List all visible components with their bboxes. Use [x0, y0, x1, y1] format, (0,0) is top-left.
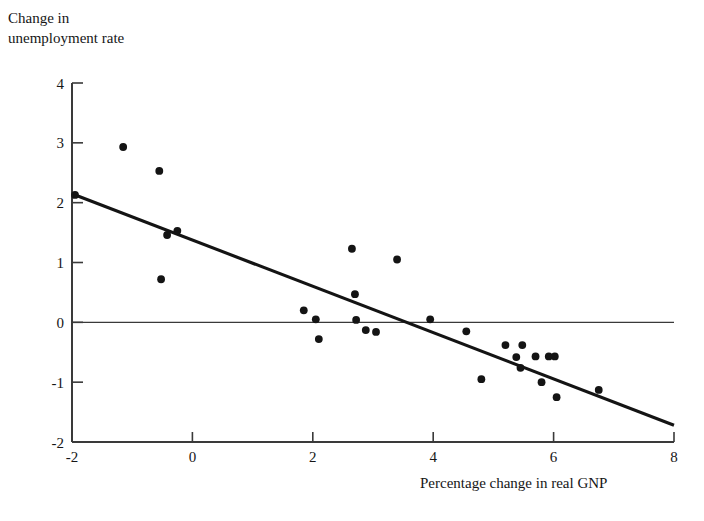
data-point	[348, 245, 356, 253]
x-tick-label: 4	[429, 449, 437, 465]
x-tick-label: 8	[670, 449, 678, 465]
y-tick-label: 3	[57, 135, 65, 151]
y-tick-label: 0	[57, 315, 65, 331]
data-point	[163, 231, 171, 239]
data-point	[362, 326, 370, 334]
data-point	[315, 335, 323, 343]
data-point	[155, 167, 163, 175]
plot-axes	[72, 83, 674, 442]
data-point	[312, 315, 320, 323]
data-point	[532, 353, 540, 361]
axis-tick-labels: -2-101234-202468	[52, 76, 678, 466]
regression-fit-line	[72, 194, 674, 426]
data-point	[157, 275, 165, 283]
data-point	[502, 341, 510, 349]
data-point	[426, 315, 434, 323]
y-tick-label: 4	[57, 76, 65, 92]
axis-ticks	[72, 83, 674, 442]
data-point	[71, 191, 79, 199]
data-points	[71, 143, 603, 401]
fit-line	[72, 194, 674, 426]
data-point	[595, 386, 603, 394]
data-point	[551, 353, 559, 361]
data-point	[518, 341, 526, 349]
data-point	[393, 256, 401, 264]
x-tick-label: 0	[189, 449, 197, 465]
y-tick-label: 2	[57, 195, 65, 211]
data-point	[512, 353, 520, 361]
data-point	[538, 378, 546, 386]
scatter-plot-figure: Change inunemployment rate Percentage ch…	[0, 0, 704, 521]
data-point	[553, 393, 561, 401]
data-point	[517, 364, 525, 372]
y-tick-label: -1	[52, 375, 65, 391]
data-point	[351, 290, 359, 298]
data-point	[173, 227, 181, 235]
data-point	[352, 316, 360, 324]
plot-canvas: -2-101234-202468	[0, 0, 704, 521]
x-tick-label: 6	[550, 449, 558, 465]
data-point	[462, 327, 470, 335]
x-tick-label: 2	[309, 449, 317, 465]
data-point	[300, 306, 308, 314]
y-tick-label: 1	[57, 255, 65, 271]
x-tick-label: -2	[66, 449, 79, 465]
data-point	[372, 328, 380, 336]
data-point	[477, 375, 485, 383]
data-point	[119, 143, 127, 151]
y-tick-label: -2	[52, 435, 65, 451]
